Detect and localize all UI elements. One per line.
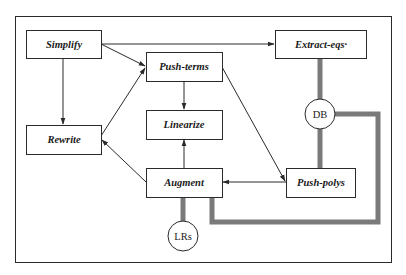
node-label: Linearize xyxy=(163,119,205,130)
store-label: LRs xyxy=(174,231,192,242)
node-extract-eqs: Extract-eqs· xyxy=(276,31,367,59)
node-linearize: Linearize xyxy=(147,111,223,140)
node-simplify: Simplify xyxy=(27,31,102,59)
node-label: Extract-eqs· xyxy=(294,39,348,50)
node-push-polys: Push-polys xyxy=(287,169,356,198)
store-db: DB xyxy=(305,99,335,129)
node-label: Rewrite xyxy=(46,134,81,145)
node-label: Push-polys xyxy=(297,177,345,188)
edge-push-terms-push-polys xyxy=(222,67,285,181)
edge-rewrite-push-terms xyxy=(101,68,145,136)
edge-augment-rewrite xyxy=(102,140,146,182)
flow-diagram: Simplify Extract-eqs· Push-terms Lineari… xyxy=(0,0,406,275)
store-lrs: LRs xyxy=(168,221,198,251)
node-rewrite: Rewrite xyxy=(27,126,102,155)
edge-simplify-push-terms xyxy=(101,44,145,66)
node-label: Push-terms xyxy=(159,61,209,72)
store-label: DB xyxy=(313,109,328,120)
node-label: Simplify xyxy=(46,39,83,50)
node-augment: Augment xyxy=(147,169,223,198)
node-label: Augment xyxy=(163,177,205,188)
node-push-terms: Push-terms xyxy=(147,53,223,82)
